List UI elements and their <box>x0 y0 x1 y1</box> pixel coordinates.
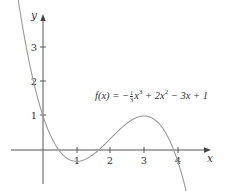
x-axis-label: x <box>207 152 213 164</box>
formula-lhs: f(x) = − <box>95 90 129 101</box>
formula-fraction: 13 <box>130 90 133 103</box>
x-tick-label: 3 <box>141 155 147 166</box>
y-axis-arrow-icon <box>40 14 45 21</box>
function-formula: f(x) = −13x3 + 2x2 − 3x + 1 <box>95 88 208 103</box>
y-tick-label: 3 <box>31 42 37 53</box>
formula-term: − 3x + 1 <box>168 90 208 101</box>
x-tick-label: 1 <box>74 155 80 166</box>
x-tick-label: 2 <box>107 155 113 166</box>
fraction-denominator: 3 <box>130 97 133 103</box>
y-axis-label: y <box>30 9 38 21</box>
y-tick-label: 1 <box>31 110 37 121</box>
formula-term: + 2x <box>142 90 164 101</box>
